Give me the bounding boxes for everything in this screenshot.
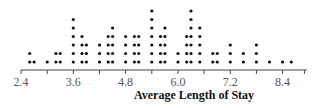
- data-dot: [216, 60, 219, 63]
- data-dot: [189, 26, 192, 29]
- data-dot: [28, 60, 31, 63]
- data-dot: [72, 18, 75, 21]
- data-dot: [137, 52, 140, 55]
- data-dot: [98, 52, 101, 55]
- data-dot: [111, 60, 114, 63]
- data-dot: [163, 35, 166, 38]
- x-axis-tick-label: 2.4: [14, 75, 29, 89]
- data-dot: [107, 43, 110, 46]
- data-dot: [163, 52, 166, 55]
- data-dot: [133, 52, 136, 55]
- data-dot: [290, 60, 293, 63]
- data-dot: [80, 60, 83, 63]
- data-dot: [85, 43, 88, 46]
- data-dot: [80, 52, 83, 55]
- data-dot: [163, 43, 166, 46]
- data-dot: [185, 52, 188, 55]
- data-dot: [72, 26, 75, 29]
- x-axis-tick-label: 7.2: [223, 75, 238, 89]
- data-dot: [268, 60, 271, 63]
- data-dot: [107, 60, 110, 63]
- data-dot: [111, 26, 114, 29]
- data-dot: [198, 52, 201, 55]
- data-dot: [229, 43, 232, 46]
- data-dot: [46, 60, 49, 63]
- data-dot: [255, 43, 258, 46]
- data-dot: [59, 52, 62, 55]
- data-dot: [211, 60, 214, 63]
- data-dot: [72, 43, 75, 46]
- data-dot: [216, 52, 219, 55]
- data-dot: [54, 52, 57, 55]
- data-dot: [72, 52, 75, 55]
- data-dot: [255, 60, 258, 63]
- dot-plot: 2.43.64.86.07.28.4 Average Length of Sta…: [0, 0, 321, 108]
- data-dot: [150, 52, 153, 55]
- data-dot: [163, 60, 166, 63]
- data-dot: [150, 26, 153, 29]
- data-dot: [185, 60, 188, 63]
- data-dot: [137, 35, 140, 38]
- data-dot: [72, 60, 75, 63]
- data-dot: [124, 52, 127, 55]
- data-dot: [159, 43, 162, 46]
- data-dot: [150, 9, 153, 12]
- data-dot: [80, 43, 83, 46]
- data-dot: [80, 35, 83, 38]
- data-dot: [33, 60, 36, 63]
- data-dot: [111, 35, 114, 38]
- data-dot: [255, 52, 258, 55]
- data-dot: [137, 43, 140, 46]
- data-dot: [133, 60, 136, 63]
- data-dot: [189, 18, 192, 21]
- data-dot: [159, 60, 162, 63]
- data-dot: [85, 52, 88, 55]
- data-dot: [54, 60, 57, 63]
- data-dot: [124, 43, 127, 46]
- x-axis-tick-label: 8.4: [275, 75, 290, 89]
- data-dot: [229, 52, 232, 55]
- data-dot: [198, 35, 201, 38]
- data-dot: [159, 35, 162, 38]
- data-dot: [229, 60, 232, 63]
- data-dot: [150, 60, 153, 63]
- data-dot: [111, 52, 114, 55]
- data-dot: [198, 43, 201, 46]
- data-dot: [133, 35, 136, 38]
- data-dot: [211, 52, 214, 55]
- data-dot: [242, 52, 245, 55]
- data-dot: [150, 18, 153, 21]
- x-axis-tick-label: 3.6: [66, 75, 81, 89]
- data-dot: [111, 43, 114, 46]
- x-axis-tick-labels: 2.43.64.86.07.28.4: [14, 75, 291, 89]
- data-dot: [150, 43, 153, 46]
- data-dot: [59, 60, 62, 63]
- data-dot: [189, 60, 192, 63]
- data-dot: [281, 60, 284, 63]
- data-dot: [159, 52, 162, 55]
- data-dot: [189, 9, 192, 12]
- data-dot: [98, 60, 101, 63]
- data-dot: [189, 35, 192, 38]
- data-dot: [124, 35, 127, 38]
- data-dot: [185, 35, 188, 38]
- data-dot: [124, 60, 127, 63]
- x-axis-ticks: [21, 70, 304, 74]
- x-axis-tick-label: 6.0: [171, 75, 186, 89]
- data-dot: [198, 26, 201, 29]
- data-dot: [72, 35, 75, 38]
- data-dot: [163, 26, 166, 29]
- data-dots: [28, 9, 293, 63]
- x-axis-title: Average Length of Stay: [134, 88, 254, 102]
- data-dot: [176, 60, 179, 63]
- data-dot: [133, 43, 136, 46]
- data-dot: [198, 60, 201, 63]
- x-axis-tick-label: 4.8: [118, 75, 133, 89]
- data-dot: [98, 43, 101, 46]
- data-dot: [185, 43, 188, 46]
- data-dot: [176, 52, 179, 55]
- data-dot: [242, 60, 245, 63]
- data-dot: [107, 52, 110, 55]
- data-dot: [85, 60, 88, 63]
- data-dot: [189, 43, 192, 46]
